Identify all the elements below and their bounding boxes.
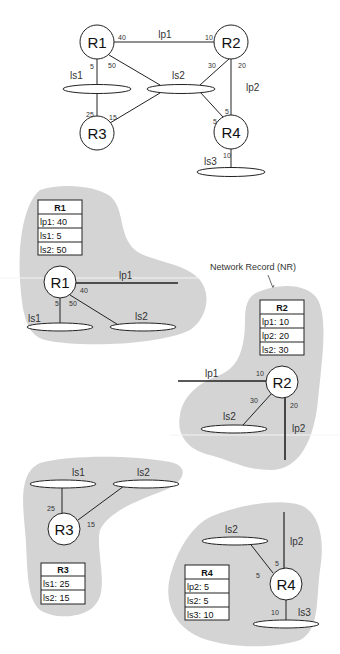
r1-record-title: R1 (54, 203, 66, 213)
r4-node-label: R4 (276, 576, 295, 593)
svg-text:25: 25 (47, 505, 55, 512)
r2-record-row: lp1: 10 (262, 317, 289, 327)
svg-text:ls3: ls3 (298, 607, 311, 618)
svg-text:ls1: ls1 (72, 467, 85, 478)
r4-ls3-network (253, 620, 319, 628)
svg-text:lp1: lp1 (205, 368, 219, 379)
cost-r4-ls2: 5 (213, 118, 217, 125)
svg-text:lp2: lp2 (290, 536, 304, 547)
r3-node-label: R3 (54, 521, 73, 538)
cost-r3-ls2: 15 (109, 114, 117, 121)
r1-record-row: lp1: 40 (40, 217, 67, 227)
r4-record-row: lp2: 5 (187, 582, 209, 592)
link-state-diagram: R1 R2 R3 R4 lp1 lp2 ls1 ls2 ls3 40 5 50 … (0, 0, 340, 654)
r3-record-region: R3 ls1 ls2 25 15 R3 ls1: 25 ls2: 15 (23, 457, 183, 616)
router-r2-label: R2 (221, 34, 240, 51)
r3-record-row: ls1: 25 (43, 579, 70, 589)
r2-record-title: R2 (276, 303, 288, 313)
r2-record-row: ls2: 30 (262, 345, 289, 355)
link-r4-ls2 (200, 92, 223, 117)
cost-r4-lp2: 5 (225, 108, 229, 115)
cost-r2-lp2: 20 (238, 62, 246, 69)
r4-record-title: R4 (201, 568, 213, 578)
link-label-lp1: lp1 (158, 29, 172, 40)
router-r4-label: R4 (221, 124, 240, 141)
svg-text:50: 50 (69, 300, 77, 307)
cost-r1-lp1: 40 (118, 34, 126, 41)
router-r1-label: R1 (87, 34, 106, 51)
svg-text:10: 10 (271, 609, 279, 616)
r1-ls2-network (110, 323, 176, 331)
r4-record-row: ls3: 10 (187, 610, 214, 620)
svg-text:20: 20 (290, 402, 298, 409)
svg-text:lp1: lp1 (119, 270, 133, 281)
svg-text:10: 10 (256, 370, 264, 377)
r1-record-row: ls2: 50 (40, 245, 67, 255)
svg-text:30: 30 (250, 397, 258, 404)
r1-ls1-network (27, 323, 93, 331)
svg-text:5: 5 (256, 572, 260, 579)
cost-r2-lp1: 10 (205, 34, 213, 41)
cost-r3-ls1: 25 (86, 111, 94, 118)
cost-r1-ls2: 50 (108, 62, 116, 69)
cost-r2-ls2: 30 (208, 62, 216, 69)
r4-ls2-network (202, 537, 268, 545)
link-label-ls1: ls1 (70, 70, 83, 81)
topology-overview: R1 R2 R3 R4 lp1 lp2 ls1 ls2 ls3 40 5 50 … (63, 25, 265, 177)
svg-text:ls2: ls2 (225, 524, 238, 535)
network-ls3 (197, 168, 265, 177)
r1-record-region: R1 lp1: 40 ls1: 5 ls2: 50 R1 lp1 ls1 ls2… (0, 186, 207, 344)
svg-text:ls1: ls1 (28, 313, 41, 324)
r1-record-row: ls1: 5 (40, 231, 62, 241)
svg-text:ls2: ls2 (223, 411, 236, 422)
r3-ls2-network (113, 480, 179, 488)
r1-node-label: R1 (50, 274, 69, 291)
svg-text:ls2: ls2 (137, 467, 150, 478)
cost-r4-ls3: 10 (223, 152, 231, 159)
cost-r1-ls1: 5 (90, 63, 94, 70)
network-ls2 (147, 85, 215, 94)
r4-record-region: R4 ls2 lp2 ls3 5 5 10 R4 lp2: 5 ls2: 5 l… (168, 502, 322, 646)
network-record-annotation: Network Record (NR) (210, 262, 296, 272)
r3-record-title: R3 (57, 565, 69, 575)
link-r3-ls2 (110, 93, 160, 123)
router-r3-label: R3 (87, 125, 106, 142)
svg-text:5: 5 (275, 560, 279, 567)
r3-record-row: ls2: 15 (43, 593, 70, 603)
svg-text:lp2: lp2 (292, 423, 306, 434)
link-label-ls3: ls3 (204, 156, 217, 167)
r2-node-label: R2 (272, 374, 291, 391)
annotation-arrow-icon (268, 275, 273, 288)
svg-text:5: 5 (55, 300, 59, 307)
r4-record-row: ls2: 5 (187, 596, 209, 606)
link-r1-ls2 (109, 55, 160, 85)
r2-record-row: lp2: 20 (262, 331, 289, 341)
r2-ls2-network (201, 425, 267, 433)
link-label-ls2: ls2 (172, 70, 185, 81)
svg-text:40: 40 (80, 287, 88, 294)
svg-text:15: 15 (87, 521, 95, 528)
link-label-lp2: lp2 (246, 82, 260, 93)
svg-text:ls2: ls2 (135, 311, 148, 322)
r3-ls1-network (30, 480, 96, 488)
network-ls1 (63, 85, 131, 94)
